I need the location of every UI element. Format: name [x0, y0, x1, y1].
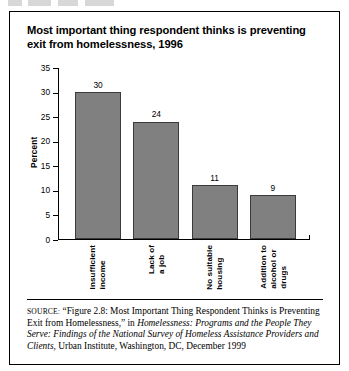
y-tick-label: 0: [45, 235, 50, 245]
bar: [133, 122, 179, 239]
x-axis-category-label: Insufficientincome: [88, 245, 107, 289]
y-tick: 25: [53, 117, 58, 118]
x-label-slot: Addition toalcohol ordrugs: [244, 242, 303, 304]
x-axis-category-line: income: [98, 245, 107, 289]
bar-slot: 30: [69, 68, 127, 239]
scan-edge-artifact: [8, 0, 128, 6]
y-tick-label: 30: [41, 87, 50, 97]
x-axis-category-line: Insufficient: [88, 245, 97, 289]
bar-value-label: 9: [271, 184, 276, 193]
bar: [75, 92, 121, 239]
bar-slot: 11: [186, 68, 244, 239]
x-axis-category-line: a job: [156, 245, 165, 274]
y-tick: 10: [53, 191, 58, 192]
x-axis-category-line: alcohol or: [268, 245, 277, 289]
x-axis-labels: InsufficientincomeLack ofa jobNo suitabl…: [58, 242, 310, 304]
y-axis-label: Percent: [30, 137, 39, 168]
y-tick-label: 25: [41, 112, 50, 122]
bar: [250, 195, 296, 239]
bar-series: 3024119: [59, 68, 310, 239]
bar-slot: 24: [127, 68, 185, 239]
bar-value-label: 30: [93, 81, 102, 90]
y-tick: 15: [53, 166, 58, 167]
bar-slot: 9: [244, 68, 302, 239]
y-tick-label: 10: [41, 185, 50, 195]
x-axis-category-label: Addition toalcohol ordrugs: [258, 245, 287, 289]
x-axis-category-line: Addition to: [258, 245, 267, 289]
x-label-slot: Lack ofa job: [127, 242, 186, 304]
x-label-slot: No suitablehousing: [185, 242, 244, 304]
plot-area: 35302520151050 3024119: [58, 68, 310, 240]
x-label-slot: Insufficientincome: [68, 242, 127, 304]
figure-container: Most important thing respondent thinks i…: [9, 11, 340, 365]
x-axis-line: [58, 239, 310, 240]
x-axis-category-line: No suitable: [205, 245, 214, 290]
bar-value-label: 24: [152, 110, 161, 119]
bar-value-label: 11: [210, 174, 219, 183]
source-note: SOURCE: “Figure 2.8: Most Important Thin…: [27, 306, 324, 352]
source-text-part2: , Urban Institute, Washington, DC, Decem…: [54, 341, 246, 351]
x-axis-category-label: No suitablehousing: [205, 245, 224, 290]
x-axis-category-line: drugs: [278, 245, 287, 289]
figure-title: Most important thing respondent thinks i…: [10, 12, 339, 51]
bar-chart: Percent 35302520151050 3024119 Insuffici…: [10, 56, 339, 305]
y-tick-label: 15: [41, 161, 50, 171]
bar: [192, 185, 238, 239]
y-tick: 5: [53, 215, 58, 216]
x-axis-category-line: housing: [215, 245, 224, 290]
y-tick-label: 20: [41, 136, 50, 146]
x-axis-category-line: Lack of: [146, 245, 155, 274]
source-label: SOURCE:: [27, 307, 60, 316]
y-tick: 30: [53, 93, 58, 94]
y-tick: 20: [53, 142, 58, 143]
source-divider: [27, 299, 323, 300]
y-tick: 0: [53, 240, 58, 241]
y-tick-label: 5: [45, 210, 50, 220]
y-tick: 35: [53, 68, 58, 69]
y-tick-label: 35: [41, 63, 50, 73]
x-axis-category-label: Lack ofa job: [146, 245, 165, 274]
